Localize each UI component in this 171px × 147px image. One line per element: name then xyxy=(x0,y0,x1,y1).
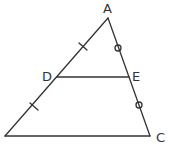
triangle-figure xyxy=(0,0,171,147)
triangle-diagram: A D E C xyxy=(0,0,171,147)
vertex-label-c: C xyxy=(156,131,165,144)
point-label-d: D xyxy=(42,70,52,83)
vertex-label-a: A xyxy=(103,2,112,15)
point-label-e: E xyxy=(132,70,140,83)
